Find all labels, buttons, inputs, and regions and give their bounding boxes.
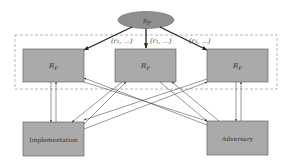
top-node-right[interactable]: RP — [207, 49, 268, 82]
svg-text:Implementation: Implementation — [29, 136, 77, 144]
diagram-canvas: sP (r₁, …) (r₁, …) (r₁, …) RP RP RP Impl… — [0, 0, 292, 168]
top-node-middle[interactable]: RP — [115, 49, 176, 82]
edge-label-middle: (r₁, …) — [150, 37, 172, 45]
implementation-node[interactable]: Implementation — [23, 122, 84, 156]
edge-label-left: (r₁, …) — [111, 37, 133, 45]
source-node-sp[interactable]: sP — [118, 12, 174, 29]
edge-label-right: (r₁, …) — [189, 37, 211, 45]
top-node-left[interactable]: RP — [23, 49, 84, 82]
adversary-node[interactable]: Adversary — [207, 121, 268, 155]
svg-text:Adversary: Adversary — [221, 135, 254, 143]
